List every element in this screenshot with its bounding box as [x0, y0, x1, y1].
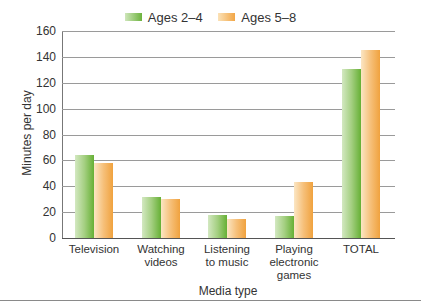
bar-ages-2-4 [342, 69, 361, 238]
y-tick-label: 140 [16, 50, 56, 64]
legend-label: Ages 5–8 [241, 10, 296, 25]
legend-swatch-orange [218, 13, 235, 21]
x-tick-label: Watchingvideos [126, 243, 196, 269]
x-tick-label: Listeningto music [192, 243, 262, 269]
y-tick-label: 120 [16, 76, 56, 90]
plot-area [62, 31, 395, 238]
x-tick-label: Television [59, 243, 129, 256]
y-tick-label: 40 [16, 179, 56, 193]
y-tick-label: 20 [16, 205, 56, 219]
bar-ages-5-8 [94, 163, 113, 238]
bar-ages-2-4 [75, 155, 94, 238]
y-tick-label: 60 [16, 153, 56, 167]
legend-swatch-green [125, 13, 142, 21]
x-tick-label: TOTAL [326, 243, 396, 256]
bar-ages-5-8 [294, 182, 313, 238]
x-tick-label: Playingelectronicgames [259, 243, 329, 282]
bar-ages-2-4 [275, 216, 294, 238]
gridline [62, 57, 395, 58]
x-axis-title: Media type [0, 284, 421, 298]
legend-item-ages-5-8: Ages 5–8 [218, 10, 296, 25]
legend-item-ages-2-4: Ages 2–4 [125, 10, 203, 25]
bar-ages-5-8 [361, 50, 380, 238]
bar-ages-5-8 [227, 219, 246, 238]
x-axis-line [62, 238, 395, 239]
y-tick-label: 0 [16, 231, 56, 245]
y-tick-label: 160 [16, 24, 56, 38]
legend: Ages 2–4 Ages 5–8 [0, 9, 421, 25]
bar-ages-2-4 [142, 197, 161, 238]
bottom-divider [0, 300, 421, 301]
gridline [62, 31, 395, 32]
legend-label: Ages 2–4 [148, 10, 203, 25]
y-tick-label: 80 [16, 128, 56, 142]
bar-ages-5-8 [161, 199, 180, 238]
y-tick-label: 100 [16, 102, 56, 116]
bar-ages-2-4 [208, 215, 227, 238]
